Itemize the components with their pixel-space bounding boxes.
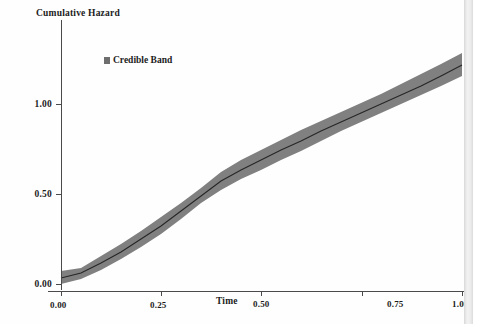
x-tick-label-0.00: 0.00 bbox=[50, 300, 67, 310]
y-tick-label-0.00: 0.00 bbox=[18, 279, 52, 289]
y-axis-title: Cumulative Hazard bbox=[36, 8, 120, 18]
x-tick-label-0.50: 0.50 bbox=[253, 299, 270, 309]
x-tick-label-0.25: 0.25 bbox=[150, 300, 167, 310]
x-tick-label-0.75: 0.75 bbox=[387, 299, 404, 309]
right-edge-margin bbox=[473, 0, 483, 324]
plot-canvas bbox=[0, 0, 483, 324]
x-axis-title: Time bbox=[216, 296, 238, 306]
credible-band-area bbox=[61, 53, 462, 284]
cumulative-hazard-chart: Cumulative Hazard Credible Band 1.00 0.5… bbox=[0, 0, 483, 324]
y-tick-label-0.50: 0.50 bbox=[18, 189, 52, 199]
legend-item-credible-band: Credible Band bbox=[113, 55, 172, 65]
credible-band-swatch-icon bbox=[104, 57, 110, 64]
legend: Credible Band bbox=[104, 55, 172, 65]
y-tick-label-1.00: 1.00 bbox=[18, 99, 52, 109]
right-edge-strip bbox=[464, 0, 473, 324]
